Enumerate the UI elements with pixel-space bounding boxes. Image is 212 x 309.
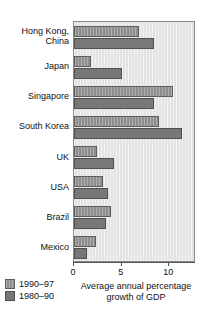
bar: [74, 218, 106, 229]
bar: [74, 236, 96, 247]
category-label: Mexico: [1, 242, 69, 252]
category-label: Brazil: [1, 212, 69, 222]
bar: [74, 56, 91, 67]
gdp-growth-bar-chart: Average annual percentage growth of GDP …: [0, 0, 212, 309]
bar: [74, 248, 87, 259]
legend-item-1990-97: 1990–97: [5, 279, 67, 289]
bar: [74, 158, 114, 169]
bar: [74, 68, 122, 79]
bar: [74, 26, 139, 37]
bar: [74, 98, 154, 109]
bar: [74, 86, 173, 97]
category-label: USA: [1, 182, 69, 192]
bar: [74, 206, 111, 217]
x-axis-title-line1: Average annual percentage: [81, 281, 191, 291]
bar: [74, 38, 154, 49]
x-axis-title: Average annual percentage growth of GDP: [64, 281, 208, 303]
category-label: South Korea: [1, 121, 69, 131]
bar: [74, 128, 182, 139]
bar: [74, 176, 103, 187]
category-label: UK: [1, 152, 69, 162]
category-label: Japan: [1, 61, 69, 71]
x-axis-title-line2: growth of GDP: [106, 292, 165, 302]
bar: [74, 146, 97, 157]
x-tick-label-5: 5: [118, 267, 123, 277]
bar: [74, 188, 108, 199]
x-tick-5: [121, 262, 122, 266]
x-tick-label-0: 0: [70, 267, 75, 277]
chart-legend: 1990–97 1980–90: [5, 279, 67, 303]
x-axis-line: [73, 262, 195, 263]
legend-label-1980-90: 1980–90: [19, 291, 54, 301]
category-label: Hong Kong, China: [1, 26, 69, 46]
legend-swatch-icon-1980-90: [5, 291, 15, 301]
category-label: Singapore: [1, 91, 69, 101]
x-tick-0: [73, 262, 74, 266]
x-tick-10: [168, 262, 169, 266]
bar: [74, 116, 159, 127]
plot-area: [73, 21, 195, 262]
x-tick-label-10: 10: [163, 267, 173, 277]
legend-label-1990-97: 1990–97: [19, 279, 54, 289]
legend-swatch-icon-1990-97: [5, 279, 15, 289]
legend-item-1980-90: 1980–90: [5, 291, 67, 301]
